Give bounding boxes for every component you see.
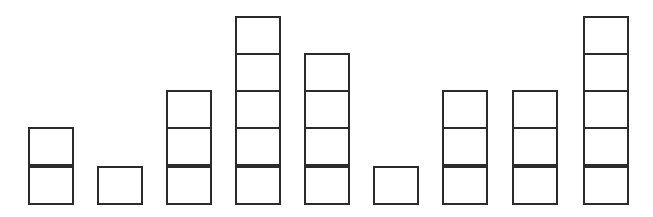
- unit-square: [442, 90, 488, 129]
- bar-column-7: [442, 92, 488, 205]
- bar-column-4: [235, 18, 281, 205]
- unit-square: [235, 90, 281, 129]
- unit-square: [373, 166, 419, 205]
- unit-square: [304, 53, 350, 92]
- bar-column-1: [28, 129, 74, 205]
- unit-square: [583, 53, 629, 92]
- unit-square: [512, 90, 558, 129]
- bar-column-6: [373, 166, 419, 205]
- unit-square: [235, 166, 281, 205]
- unit-square: [235, 16, 281, 55]
- unit-square: [304, 90, 350, 129]
- unit-square: [442, 166, 488, 205]
- unit-square: [304, 166, 350, 205]
- unit-square: [166, 166, 212, 205]
- unit-square: [235, 53, 281, 92]
- unit-square: [97, 166, 143, 205]
- bar-column-2: [97, 166, 143, 205]
- unit-square: [166, 127, 212, 166]
- bar-column-8: [512, 92, 558, 205]
- unit-square: [304, 127, 350, 166]
- unit-square: [166, 90, 212, 129]
- unit-square: [512, 127, 558, 166]
- bar-column-9: [583, 18, 629, 205]
- unit-square: [28, 127, 74, 166]
- unit-square: [583, 127, 629, 166]
- pictograph-figure: [0, 0, 653, 217]
- bar-column-3: [166, 92, 212, 205]
- unit-square: [583, 16, 629, 55]
- unit-square: [235, 127, 281, 166]
- unit-square: [442, 127, 488, 166]
- bar-column-5: [304, 55, 350, 205]
- chart-plot-area: [0, 0, 653, 217]
- unit-square: [583, 166, 629, 205]
- unit-square: [583, 90, 629, 129]
- unit-square: [512, 166, 558, 205]
- unit-square: [28, 166, 74, 205]
